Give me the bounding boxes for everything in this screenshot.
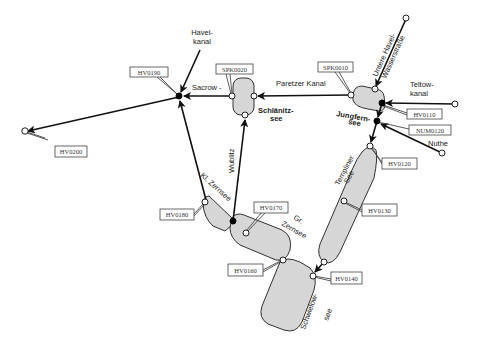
node-jungfern-north xyxy=(372,86,378,92)
edge-kl-zernsee xyxy=(180,101,206,200)
node-nuthe-end xyxy=(439,150,445,156)
node-num0120 xyxy=(374,118,380,124)
node-hv0200 xyxy=(22,128,28,134)
station-label-hv0130: HV0130 xyxy=(362,204,397,216)
node-wublitz-junction xyxy=(230,218,236,224)
station-text: HV0140 xyxy=(335,275,357,282)
label-sacrow: Sacrow - xyxy=(192,83,222,92)
station-text: HV0200 xyxy=(60,148,82,155)
station-label-spk0020: SPK0020 xyxy=(216,64,253,74)
label-havelkanal-2: kanal xyxy=(193,37,211,46)
station-text: HV0160 xyxy=(234,267,256,274)
label-teltowkanal: Teltow- xyxy=(410,80,434,89)
station-label-hv0160: HV0160 xyxy=(228,264,263,276)
node-teltowkanal-end xyxy=(452,101,458,107)
station-text: HV0120 xyxy=(388,160,410,167)
node-hv0160 xyxy=(280,257,286,263)
station-text: HV0190 xyxy=(138,69,160,76)
station-text: HV0170 xyxy=(260,204,282,211)
node-schlaenitz-east xyxy=(251,93,257,99)
station-text: SPK0010 xyxy=(323,64,348,71)
label-nuthe: Nuthe xyxy=(428,139,448,148)
station-text: HV0110 xyxy=(413,111,435,118)
node-spk0020 xyxy=(229,93,235,99)
station-label-num0120: NUM0120 xyxy=(409,125,451,135)
station-label-spk0010: SPK0010 xyxy=(318,62,353,72)
node-hv0130 xyxy=(341,198,347,204)
station-label-hv0200: HV0200 xyxy=(55,146,87,157)
station-label-hv0170: HV0170 xyxy=(254,202,288,213)
node-hv0180 xyxy=(202,199,208,205)
label-schlaenitzsee-2: see xyxy=(270,114,283,123)
station-label-hv0110: HV0110 xyxy=(407,109,442,119)
label-teltowkanal-2: kanal xyxy=(410,89,428,98)
node-spk0010 xyxy=(348,92,354,98)
station-label-hv0180: HV0180 xyxy=(160,209,194,220)
node-hv0140 xyxy=(310,273,316,279)
label-paretzer-kanal: Paretzer Kanal xyxy=(276,79,326,88)
edge-to-hv0200 xyxy=(28,97,179,131)
label-havelkanal: Havel- xyxy=(191,28,213,37)
lake-gr-zernsee xyxy=(230,214,291,260)
station-text: SPK0020 xyxy=(222,66,247,73)
edge-teltowkanal xyxy=(386,103,455,104)
station-text: NUM0120 xyxy=(416,127,444,134)
node-hv0170 xyxy=(243,230,249,236)
station-label-hv0140: HV0140 xyxy=(331,272,362,284)
node-hv0120 xyxy=(367,143,373,149)
node-schlaenitz-south xyxy=(242,112,248,118)
node-hv0110 xyxy=(379,100,385,106)
edge-paretzer-kanal xyxy=(258,95,351,96)
node-junction-hv0190 xyxy=(176,93,182,99)
label-jungfernsee-2: see xyxy=(348,117,362,128)
station-label-hv0120: HV0120 xyxy=(382,158,417,169)
node-templiner-south xyxy=(321,259,327,265)
station-text: HV0130 xyxy=(368,207,390,214)
label-wublitz: Wublitz xyxy=(227,148,236,173)
station-text: HV0180 xyxy=(166,211,188,218)
station-label-hv0190: HV0190 xyxy=(130,67,168,77)
node-untere-havel-end xyxy=(403,15,409,21)
waterway-diagram: HV0190 HV0200 SPK0020 SPK0010 HV0110 NUM… xyxy=(0,0,479,349)
label-schwielowsee-2: see xyxy=(321,307,334,321)
